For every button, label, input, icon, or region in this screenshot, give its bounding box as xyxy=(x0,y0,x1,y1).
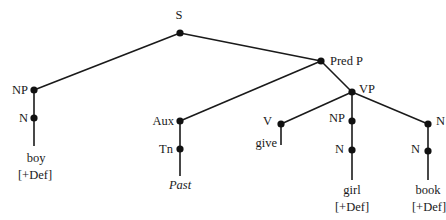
leaf-boy-feature: [+Def] xyxy=(18,169,52,182)
leaf-past: Past xyxy=(169,179,191,192)
node-dot-v xyxy=(277,120,284,127)
leaf-book: book xyxy=(416,184,441,197)
node-label-np-direct: N xyxy=(436,115,445,128)
node-dot-n-indirect xyxy=(348,146,355,153)
node-label-n-subject: N xyxy=(19,112,28,125)
node-label-predp: Pred P xyxy=(330,55,363,68)
node-dot-np-direct xyxy=(424,120,431,127)
leaf-give: give xyxy=(255,137,277,150)
node-label-n-indirect: N xyxy=(335,143,344,156)
leaf-girl: girl xyxy=(343,184,360,197)
node-label-tn: Tn xyxy=(159,143,173,156)
leaf-girl-feature: [+Def] xyxy=(335,201,369,214)
node-label-aux: Aux xyxy=(152,115,174,128)
node-dot-np-indirect xyxy=(348,117,355,124)
leaf-boy: boy xyxy=(27,152,46,165)
node-dot-n-direct xyxy=(424,147,431,154)
node-dot-vp xyxy=(348,88,355,95)
tree-edges xyxy=(0,0,446,220)
node-dot-np-subject xyxy=(30,86,37,93)
node-label-s: S xyxy=(176,9,183,22)
node-dot-tn xyxy=(176,145,183,152)
node-label-v: V xyxy=(263,115,272,128)
node-label-np-indirect: NP xyxy=(329,112,345,125)
node-label-vp: VP xyxy=(359,83,375,96)
node-dot-n-subject xyxy=(30,114,37,121)
node-dot-predp xyxy=(317,57,324,64)
leaf-book-feature: [+Def] xyxy=(412,201,446,214)
node-dot-aux xyxy=(176,117,183,124)
node-dot-s xyxy=(176,29,183,36)
node-label-n-direct: N xyxy=(411,143,420,156)
node-label-np-subject: NP xyxy=(12,84,28,97)
